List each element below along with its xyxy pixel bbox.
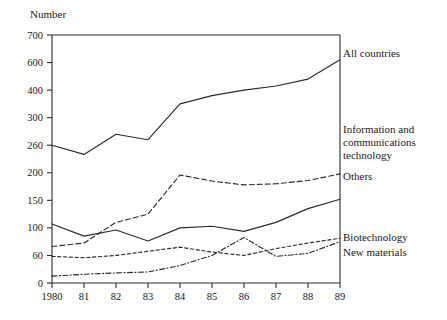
x-tick-label: 83 <box>143 291 154 302</box>
y-tick-label: 0 <box>38 278 43 289</box>
x-tick-label: 1980 <box>42 291 63 302</box>
x-tick-label: 87 <box>271 291 282 302</box>
series-label-text: communications <box>343 136 416 148</box>
x-tick-label: 82 <box>111 291 122 302</box>
y-tick-label: 100 <box>27 222 43 233</box>
line-chart-canvas: Number 060100150200260300400600700 19808… <box>0 0 447 320</box>
y-tick-label: 150 <box>27 195 43 206</box>
series-label-text: technology <box>343 149 392 161</box>
x-tick-label: 88 <box>303 291 314 302</box>
series-label-text: All countries <box>343 47 400 59</box>
y-tick-label: 700 <box>27 30 43 41</box>
series-label-text: Information and <box>343 123 415 135</box>
x-tick-label: 89 <box>335 291 346 302</box>
x-tick-label: 84 <box>175 291 186 302</box>
y-tick-label: 600 <box>27 57 43 68</box>
series-label-text: Biotechnology <box>343 231 408 243</box>
x-tick-label: 85 <box>207 291 218 302</box>
x-tick-label: 81 <box>79 291 90 302</box>
y-tick-label: 260 <box>27 140 43 151</box>
y-axis-title: Number <box>30 8 66 20</box>
y-tick-label: 200 <box>27 167 43 178</box>
x-tick-label: 86 <box>239 291 250 302</box>
series-label-text: New materials <box>343 246 407 258</box>
y-tick-label: 400 <box>27 85 43 96</box>
series-label-text: Others <box>343 170 372 182</box>
chart-figure: Number 060100150200260300400600700 19808… <box>0 0 447 320</box>
y-tick-label: 60 <box>33 250 44 261</box>
y-tick-label: 300 <box>27 112 43 123</box>
